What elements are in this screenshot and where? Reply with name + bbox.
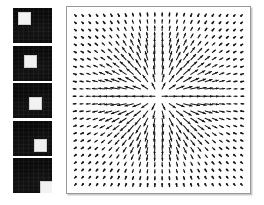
moving-square-object: [34, 139, 47, 152]
sequence-frame: [13, 158, 52, 193]
flow-field-panel: [66, 6, 251, 194]
moving-square-object: [29, 97, 42, 110]
moving-square-object: [24, 55, 37, 68]
moving-square-object: [40, 181, 52, 193]
sequence-frame: [13, 83, 52, 118]
sequence-frame: [13, 8, 52, 43]
sequence-frame: [13, 46, 52, 81]
image-sequence-filmstrip: [13, 8, 52, 193]
moving-square-object: [18, 12, 31, 25]
figure-root: [0, 0, 264, 205]
sequence-frame: [13, 121, 52, 156]
flow-field-quiver-plot: [67, 7, 250, 193]
